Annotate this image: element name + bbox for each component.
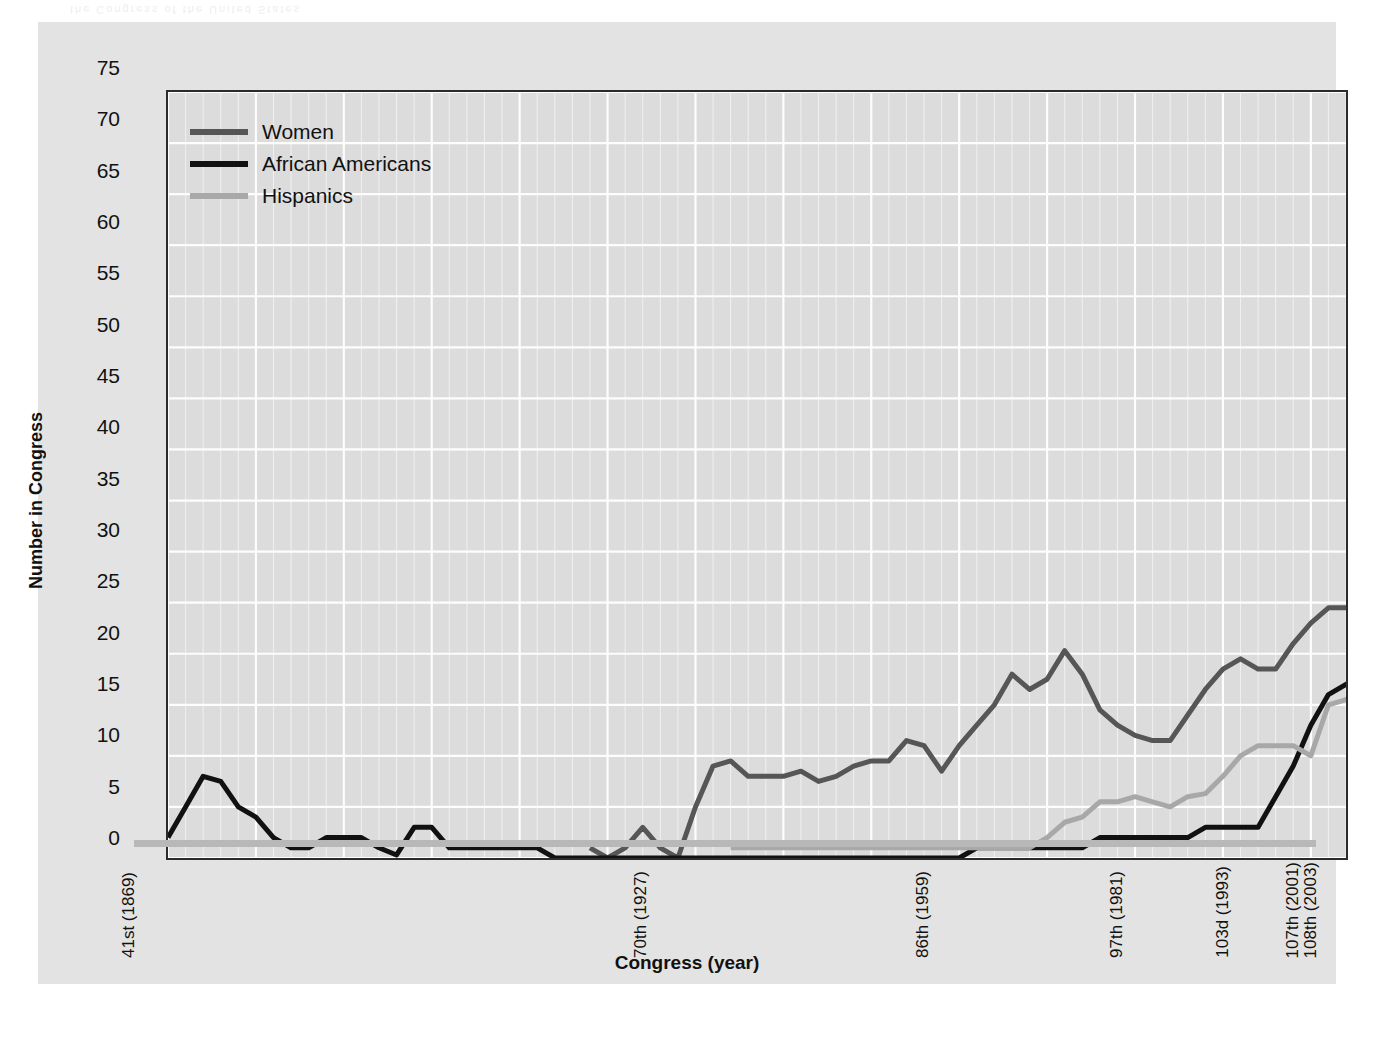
y-axis-tick-60: 60 <box>76 210 120 234</box>
legend-item-label: Women <box>262 120 334 144</box>
x-axis-tick-97: 97th (1981) <box>1107 871 1127 958</box>
y-axis-tick-55: 55 <box>76 261 120 285</box>
y-axis-tick-40: 40 <box>76 415 120 439</box>
y-axis-tick-10: 10 <box>76 723 120 747</box>
legend-item-african-americans[interactable]: African Americans <box>190 148 520 180</box>
legend-swatch-icon <box>190 129 248 135</box>
y-axis-tick-45: 45 <box>76 364 120 388</box>
y-axis-tick-65: 65 <box>76 159 120 183</box>
x-axis-tick-labels: 41st (1869)70th (1927)86th (1959)97th (1… <box>0 846 1374 958</box>
x-axis-tick-41: 41st (1869) <box>119 872 139 958</box>
y-axis-tick-5: 5 <box>76 775 120 799</box>
legend-swatch-icon <box>190 161 248 167</box>
y-axis-tick-70: 70 <box>76 107 120 131</box>
legend-item-women[interactable]: Women <box>190 116 520 148</box>
figure-page: the Congress of the United States WomenA… <box>0 0 1374 1046</box>
legend-swatch-icon <box>190 193 248 199</box>
x-axis-tick-103: 103d (1993) <box>1213 866 1233 958</box>
page-bleed-through-text: the Congress of the United States <box>70 2 770 16</box>
y-axis-tick-50: 50 <box>76 313 120 337</box>
legend-item-label: Hispanics <box>262 184 353 208</box>
y-axis-title: Number in Congress <box>26 360 54 640</box>
y-axis-tick-15: 15 <box>76 672 120 696</box>
y-axis-tick-35: 35 <box>76 467 120 491</box>
y-axis-tick-75: 75 <box>76 56 120 80</box>
legend-item-hispanics[interactable]: Hispanics <box>190 180 520 212</box>
y-axis-tick-25: 25 <box>76 569 120 593</box>
x-axis-tick-86: 86th (1959) <box>913 871 933 958</box>
legend-item-label: African Americans <box>262 152 431 176</box>
x-axis-tick-108: 108th (2003) <box>1301 862 1321 958</box>
x-axis-tick-70: 70th (1927) <box>631 871 651 958</box>
y-axis-tick-30: 30 <box>76 518 120 542</box>
y-axis-tick-20: 20 <box>76 621 120 645</box>
chart-legend: WomenAfrican AmericansHispanics <box>190 116 520 212</box>
x-axis-title: Congress (year) <box>0 952 1374 974</box>
